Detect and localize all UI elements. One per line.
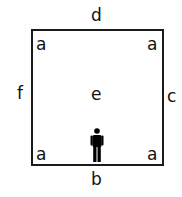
center-label: e [91, 86, 101, 103]
corner-label-bottom-left: a [36, 146, 46, 163]
wall-label-top: d [91, 7, 102, 24]
wall-label-left: f [17, 85, 23, 102]
corner-label-top-left: a [36, 36, 46, 53]
person-icon [90, 128, 104, 162]
wall-label-right: c [167, 88, 176, 105]
corner-label-top-right: a [147, 36, 157, 53]
wall-label-bottom: b [91, 171, 102, 188]
corner-label-bottom-right: a [147, 146, 157, 163]
